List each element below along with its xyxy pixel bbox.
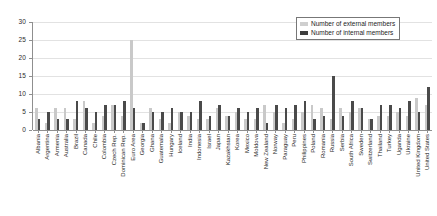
bar-internal bbox=[123, 101, 126, 130]
bar-internal bbox=[180, 112, 183, 130]
x-axis-tick bbox=[394, 130, 404, 133]
bar-internal bbox=[361, 108, 364, 130]
bar-group bbox=[81, 22, 91, 130]
y-axis-tick bbox=[29, 58, 32, 59]
bar-internal bbox=[47, 112, 50, 130]
legend-label-external: Number of external members bbox=[311, 21, 395, 28]
bar-internal bbox=[370, 119, 373, 130]
x-axis-tick-label: Poland bbox=[310, 134, 316, 153]
x-axis-tick bbox=[119, 130, 129, 133]
x-axis-tick bbox=[337, 130, 347, 133]
x-axis-tick-label: Sweden bbox=[358, 134, 364, 156]
bar-group bbox=[195, 22, 205, 130]
x-axis-label-cell: Paraguay bbox=[280, 134, 290, 214]
x-axis-label-cell: Albania bbox=[33, 134, 43, 214]
x-axis-tick bbox=[71, 130, 81, 133]
bar-internal bbox=[237, 108, 240, 130]
x-axis-tick bbox=[214, 130, 224, 133]
bar-internal bbox=[256, 108, 259, 130]
x-axis-tick bbox=[413, 130, 423, 133]
x-axis-tick bbox=[147, 130, 157, 133]
x-axis-tick bbox=[90, 130, 100, 133]
bar-group bbox=[33, 22, 43, 130]
x-axis-tick bbox=[100, 130, 110, 133]
x-axis-label-cell: Norway bbox=[271, 134, 281, 214]
x-axis-tick bbox=[33, 130, 43, 133]
x-axis-label-cell: Chile bbox=[90, 134, 100, 214]
x-axis-label-cell: Uganda bbox=[394, 134, 404, 214]
y-axis-tick bbox=[29, 94, 32, 95]
x-axis-tick-label: Russia bbox=[329, 134, 335, 152]
bar-internal bbox=[342, 116, 345, 130]
x-axis-label-cell: Czech Rep. bbox=[109, 134, 119, 214]
x-axis-tick-label: Israel bbox=[206, 134, 212, 149]
x-axis-tick-label: Japan bbox=[215, 134, 221, 150]
bar-group bbox=[204, 22, 214, 130]
x-axis-tick-label: Albania bbox=[35, 134, 41, 154]
bar-internal bbox=[199, 101, 202, 130]
bar-group bbox=[280, 22, 290, 130]
x-axis-tick bbox=[290, 130, 300, 133]
bar-internal bbox=[218, 105, 221, 130]
bar-internal bbox=[247, 112, 250, 130]
x-axis-tick-label: Kazakhstan bbox=[225, 134, 231, 165]
x-axis-tick-label: India bbox=[187, 134, 193, 147]
bar-internal bbox=[57, 119, 60, 130]
bar-chart: 051015202530 AlbaniaArgentinaArmeniaAust… bbox=[0, 0, 437, 216]
bar-group bbox=[52, 22, 62, 130]
x-axis-tick-label: Dominican Rep. bbox=[120, 134, 126, 177]
x-axis-tick bbox=[261, 130, 271, 133]
x-axis-label-cell: Argentina bbox=[43, 134, 53, 214]
x-axis-tick bbox=[299, 130, 309, 133]
y-axis-tick-label: 5 bbox=[22, 109, 26, 116]
x-axis-tick-label: New Zealand bbox=[263, 134, 269, 169]
x-axis-label-cell: Switzerland bbox=[366, 134, 376, 214]
x-axis-label-cell: Sweden bbox=[356, 134, 366, 214]
x-axis-tick bbox=[185, 130, 195, 133]
x-axis-label-cell: Brazil bbox=[71, 134, 81, 214]
x-axis-tick-label: Ghana bbox=[149, 134, 155, 152]
x-axis-tick-label: Uganda bbox=[396, 134, 402, 155]
x-axis-tick bbox=[81, 130, 91, 133]
bar-internal bbox=[304, 101, 307, 130]
bar-internal bbox=[114, 105, 117, 130]
bar-internal bbox=[161, 112, 164, 130]
bar-internal bbox=[85, 108, 88, 130]
bar-internal bbox=[389, 105, 392, 130]
x-axis-label-cell: Euro Area bbox=[128, 134, 138, 214]
x-axis-label-cell: India bbox=[185, 134, 195, 214]
bar-internal bbox=[294, 105, 297, 130]
x-axis-label-cell: Korea bbox=[233, 134, 243, 214]
x-axis-tick bbox=[423, 130, 433, 133]
bar-internal bbox=[427, 87, 430, 130]
bar-group bbox=[413, 22, 423, 130]
bar-internal bbox=[95, 112, 98, 130]
x-axis-tick bbox=[328, 130, 338, 133]
legend-item-external: Number of external members bbox=[300, 20, 395, 29]
x-axis-label-cell: Ghana bbox=[147, 134, 157, 214]
x-axis-label-cell: Ukraine bbox=[404, 134, 414, 214]
x-axis-tick-label: Norway bbox=[272, 134, 278, 154]
bar-group bbox=[119, 22, 129, 130]
x-axis-tick-label: Iceland bbox=[177, 134, 183, 153]
x-axis-tick-label: Colombia bbox=[101, 134, 107, 159]
legend-label-internal: Number of internal members bbox=[311, 30, 393, 37]
x-axis-tick-label: Czech Rep. bbox=[111, 134, 117, 165]
x-axis-tick-label: Indonesia bbox=[196, 134, 202, 160]
x-axis-tick bbox=[204, 130, 214, 133]
x-axis-tick bbox=[366, 130, 376, 133]
x-axis-label-cell: United States bbox=[423, 134, 433, 214]
y-axis-tick-label: 15 bbox=[19, 73, 26, 80]
x-axis-tick-label: United Kingdom bbox=[415, 134, 421, 177]
y-axis-tick bbox=[29, 112, 32, 113]
bar-internal bbox=[323, 116, 326, 130]
x-axis-tick bbox=[52, 130, 62, 133]
x-axis-label-cell: United Kingdom bbox=[413, 134, 423, 214]
x-axis-label-cell: Poland bbox=[309, 134, 319, 214]
bar-internal bbox=[171, 108, 174, 130]
bar-internal bbox=[332, 76, 335, 130]
x-axis-label-cell: Australia bbox=[62, 134, 72, 214]
x-axis-labels: AlbaniaArgentinaArmeniaAustraliaBrazilCa… bbox=[33, 134, 432, 214]
x-axis-label-cell: Mexico bbox=[242, 134, 252, 214]
x-axis-tick bbox=[43, 130, 53, 133]
